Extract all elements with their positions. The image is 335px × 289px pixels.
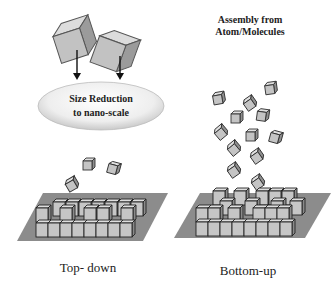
ellipse-label-line1: Size Reduction bbox=[69, 93, 133, 104]
bottom-up-panel: Assembly from Atom/Molecules bbox=[174, 14, 331, 278]
atom-cube-icon bbox=[226, 140, 243, 157]
atom-cube-icon bbox=[231, 111, 243, 123]
size-reduction-ellipse: Size Reduction to nano-scale bbox=[38, 82, 164, 130]
bottom-up-caption: Bottom-up bbox=[220, 263, 276, 278]
atom-cube-icon bbox=[213, 124, 230, 141]
atom-cube-icon bbox=[246, 129, 258, 141]
atom-cube-icon bbox=[269, 130, 284, 145]
atom-cube-icon bbox=[256, 108, 270, 122]
atom-cube-icon bbox=[212, 91, 226, 105]
atom-cube-icon bbox=[264, 81, 278, 95]
nano-cube-icon bbox=[83, 158, 95, 170]
atom-cube-icon bbox=[226, 162, 243, 179]
atom-cube-icon bbox=[242, 95, 259, 112]
top-down-caption: Top- down bbox=[60, 260, 117, 275]
nano-cube-icon bbox=[107, 161, 122, 176]
diagram-canvas: Size Reduction to nano-scale Top- down A… bbox=[0, 0, 335, 289]
top-down-panel: Size Reduction to nano-scale Top- down bbox=[17, 15, 168, 275]
atom-cube-icon bbox=[249, 148, 266, 165]
ellipse-label-line2: to nano-scale bbox=[73, 107, 129, 118]
assembly-title-line1: Assembly from bbox=[218, 14, 283, 25]
nano-cube-icon bbox=[64, 176, 80, 192]
bulk-cube-icon bbox=[90, 26, 141, 75]
assembly-title-line2: Atom/Molecules bbox=[215, 26, 285, 37]
